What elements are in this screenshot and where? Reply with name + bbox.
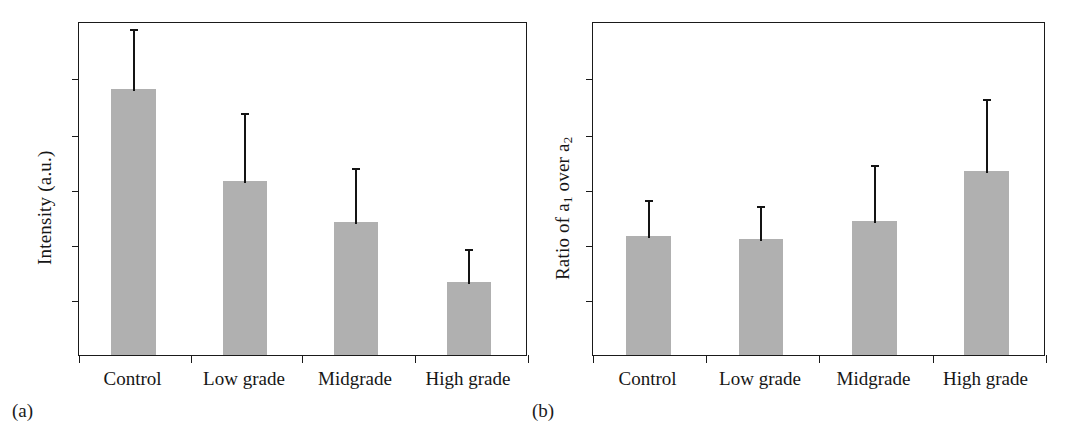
plot-inner-b [593, 23, 1044, 355]
error-bar-midgrade [355, 168, 357, 224]
bar-low-grade [739, 239, 783, 355]
error-cap-control [130, 29, 138, 31]
panel-caption-a: (a) [12, 400, 33, 422]
x-axis-tick-3 [415, 355, 416, 363]
error-bar-low-grade [760, 206, 762, 241]
x-axis-tick-3 [933, 355, 934, 363]
error-bar-control [133, 29, 135, 91]
y-label-text: Ratio of a [552, 203, 573, 280]
error-cap-high-grade [983, 99, 991, 101]
y-axis-tick-1 [586, 136, 593, 137]
x-axis-tick-0 [593, 355, 594, 363]
y-axis-tick-1 [72, 136, 79, 137]
bar-midgrade [334, 222, 378, 355]
error-cap-low-grade [757, 206, 765, 208]
y-axis-label-b: Ratio of a1 over a2 [552, 137, 576, 280]
y-axis-tick-4 [72, 301, 79, 302]
figure-container: Intensity (a.u.) ControlLow gradeMidgrad… [0, 0, 1081, 445]
y-axis-tick-3 [72, 246, 79, 247]
y-axis-tick-2 [586, 191, 593, 192]
y-axis-tick-0 [72, 79, 79, 80]
x-axis-tick-4 [1046, 355, 1047, 363]
bar-high-grade [447, 282, 491, 355]
error-bar-high-grade [468, 249, 470, 284]
error-bar-high-grade [986, 99, 988, 173]
x-tick-label-high-grade: High grade [398, 368, 538, 390]
y-axis-tick-2 [72, 191, 79, 192]
error-bar-midgrade [874, 165, 876, 223]
panel-caption-b: (b) [532, 400, 554, 422]
y-axis-tick-0 [586, 79, 593, 80]
plot-area-b [592, 22, 1045, 356]
error-cap-control [645, 200, 653, 202]
plot-area-a [78, 22, 527, 356]
y-label-text: over a [552, 143, 573, 196]
error-bar-low-grade [244, 113, 246, 183]
y-axis-label-a: Intensity (a.u.) [34, 150, 56, 265]
bar-high-grade [964, 171, 1009, 355]
error-cap-midgrade [352, 168, 360, 170]
error-bar-control [648, 200, 650, 238]
x-axis-tick-0 [79, 355, 80, 363]
y-axis-tick-4 [586, 301, 593, 302]
panel-b: Ratio of a1 over a2 ControlLow gradeMidg… [540, 0, 1081, 445]
bar-midgrade [852, 221, 897, 355]
x-axis-tick-2 [819, 355, 820, 363]
error-cap-high-grade [465, 249, 473, 251]
x-axis-tick-1 [706, 355, 707, 363]
bar-low-grade [223, 181, 267, 355]
y-label-subscript: 1 [560, 196, 575, 203]
panel-a: Intensity (a.u.) ControlLow gradeMidgrad… [0, 0, 540, 445]
x-tick-label-high-grade: High grade [916, 368, 1056, 390]
bar-control [626, 236, 671, 355]
x-axis-tick-2 [302, 355, 303, 363]
y-label-subscript: 2 [560, 137, 575, 144]
y-label-text: Intensity (a.u.) [34, 150, 55, 265]
x-axis-tick-1 [191, 355, 192, 363]
y-axis-tick-3 [586, 246, 593, 247]
plot-inner-a [79, 23, 526, 355]
error-cap-low-grade [241, 113, 249, 115]
x-axis-tick-4 [528, 355, 529, 363]
bar-control [111, 89, 156, 355]
error-cap-midgrade [871, 165, 879, 167]
